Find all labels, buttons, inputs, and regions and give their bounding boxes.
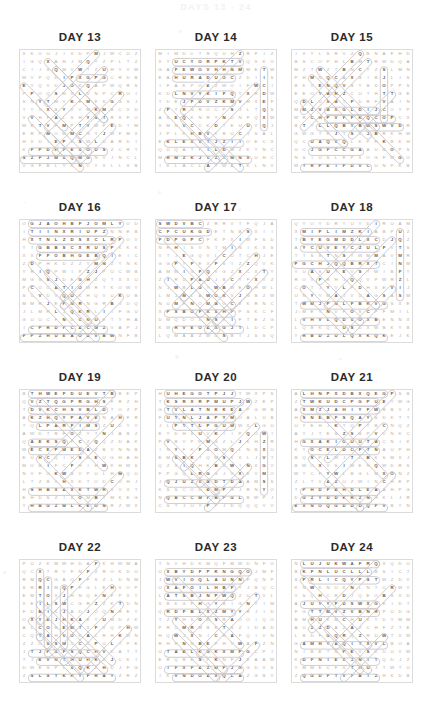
scan-speck xyxy=(199,442,202,445)
solution-marker xyxy=(179,397,253,473)
scan-speck xyxy=(256,424,258,426)
solution-marker xyxy=(171,405,245,481)
solution-marker xyxy=(51,65,109,124)
solution-overlay xyxy=(292,560,412,682)
scan-speck xyxy=(179,30,182,33)
solution-marker xyxy=(28,237,115,244)
solution-marker xyxy=(195,421,261,489)
solution-marker xyxy=(156,228,211,235)
puzzle-title: DAY 14 xyxy=(152,30,280,44)
solution-marker xyxy=(300,245,379,252)
solution-overlay xyxy=(20,50,140,172)
solution-marker xyxy=(43,583,117,659)
puzzle-panel: DAY 20HUHEGOTPJJTWXPSTKSRXRPMUPJWZEPGTVL… xyxy=(152,370,280,513)
solution-marker xyxy=(179,227,253,303)
solution-marker xyxy=(164,480,243,487)
puzzle-title: DAY 24 xyxy=(288,540,416,554)
puzzle-panel: DAY 23TSVHDKMQFMWDNFOUXBYDFPKNGQOJMFJWVI… xyxy=(152,540,280,683)
solution-marker xyxy=(299,575,373,651)
solution-marker xyxy=(307,560,381,634)
solution-marker xyxy=(203,130,245,172)
solution-marker xyxy=(172,58,243,65)
puzzle-panel: DAY 19BTHWEFDUEVTBBEPQVZTQGFRGHSFRZHTDVK… xyxy=(16,370,144,513)
solution-marker xyxy=(211,268,269,327)
solution-marker xyxy=(300,302,387,309)
solution-marker xyxy=(396,228,403,301)
puzzle-panel: DAY 15IXYLSRVZQBNAFHDBSCOPHLBMTRWDQAMZTW… xyxy=(288,30,416,173)
letter-grid: PUZKMWHDAFKHWMAQCXTRVFNFZROKDURMQCGAQFFS… xyxy=(19,559,141,683)
puzzle-title: DAY 17 xyxy=(152,200,280,214)
scan-speck xyxy=(204,81,208,85)
letter-grid: BTHWEFDUEVTBBEPQVZTQGFRGHSFRZHTDVKCHSVBL… xyxy=(19,389,141,513)
solution-overlay xyxy=(20,390,140,512)
scan-speck xyxy=(356,290,358,292)
solution-marker xyxy=(35,599,109,675)
solution-marker xyxy=(164,415,235,422)
puzzle-title: DAY 15 xyxy=(288,30,416,44)
puzzle-panel: DAY 24NLUJUKWAFRQXQDUBKFNLUCLLLBSICTSPRL… xyxy=(288,540,416,683)
letter-grid: NLUJUKWAFRQXQDUBKFNLUCLLLBSICTSPRLICQYPS… xyxy=(291,559,413,683)
scan-speck xyxy=(175,355,179,359)
puzzle-title: DAY 20 xyxy=(152,370,280,384)
solution-marker xyxy=(164,650,243,657)
solution-marker xyxy=(300,334,387,341)
puzzle-title: DAY 21 xyxy=(288,370,416,384)
solution-marker xyxy=(307,616,365,675)
solution-marker xyxy=(27,616,85,675)
solution-marker xyxy=(59,300,101,342)
solution-marker xyxy=(323,235,397,311)
solution-marker xyxy=(36,253,99,260)
solution-marker xyxy=(164,407,235,414)
scan-speck xyxy=(391,88,395,92)
solution-overlay xyxy=(292,50,412,172)
solution-marker xyxy=(308,148,363,155)
solution-marker xyxy=(292,504,387,511)
solution-marker xyxy=(195,251,261,319)
scan-speck xyxy=(3,571,6,574)
solution-marker xyxy=(35,454,93,512)
solution-marker xyxy=(163,438,221,497)
solution-marker xyxy=(156,237,203,244)
solution-marker xyxy=(171,243,237,311)
puzzle-title: DAY 22 xyxy=(16,540,144,554)
letter-grid: TSVHDKMQFMWDNFOUXBYDFPKNGQOJMFJWVIOQLAUN… xyxy=(155,559,277,683)
solution-marker xyxy=(27,284,77,335)
puzzle-title: DAY 16 xyxy=(16,200,144,214)
solution-marker xyxy=(292,261,379,268)
solution-overlay xyxy=(156,220,276,342)
solution-marker xyxy=(180,99,235,106)
solution-marker xyxy=(36,423,99,430)
letter-grid: HUHEGOTPJJTWXPSTKSRXRPMUPJWZEPGTVLATNKKE… xyxy=(155,389,277,513)
puzzle-grid-container: DAY 13XKOUJIXDPMJWCUZIGQXAHJMQYZPLTZCIJS… xyxy=(0,30,432,712)
solution-marker xyxy=(43,57,109,125)
solution-overlay xyxy=(20,220,140,342)
solution-marker xyxy=(260,431,267,495)
puzzle-panel: DAY 16OGJAOHBFJOMLYODITIINXRIUPZNNEBHXTN… xyxy=(16,200,144,343)
scan-speck xyxy=(208,483,210,485)
solution-marker xyxy=(300,164,371,171)
scan-speck xyxy=(191,52,192,53)
solution-marker xyxy=(355,470,397,512)
letter-grid: SWDVBCZRRVTFQJACFCUKGDETNBSXIIFDPGPCFKPX… xyxy=(155,219,277,343)
solution-overlay xyxy=(156,50,276,172)
puzzle-title: DAY 19 xyxy=(16,370,144,384)
letter-grid: ALHNPXDBXQEGPSBZTWKUDCPGPUEYWGAXMZJAHIYF… xyxy=(291,389,413,513)
solution-marker xyxy=(203,81,261,140)
solution-marker xyxy=(300,496,371,503)
solution-overlay xyxy=(156,560,276,682)
solution-marker xyxy=(164,585,235,592)
solution-marker xyxy=(299,57,373,133)
solution-marker xyxy=(300,568,371,575)
solution-marker xyxy=(300,439,379,446)
solution-marker xyxy=(323,390,397,464)
solution-overlay xyxy=(20,560,140,682)
solution-marker xyxy=(28,228,107,235)
letter-grid: OGJAOHBFJOMLYODITIINXRIUPZNNEBHXTNLZDSXC… xyxy=(19,219,141,343)
solution-marker xyxy=(20,156,91,163)
solution-marker xyxy=(27,259,93,327)
solution-marker xyxy=(164,398,243,405)
solution-marker xyxy=(76,75,107,82)
solution-marker xyxy=(36,245,107,252)
scan-speck xyxy=(200,424,202,426)
solution-marker xyxy=(172,91,235,98)
